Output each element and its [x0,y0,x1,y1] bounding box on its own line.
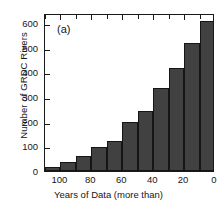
x-axis-tick-labels: 100806040200 [44,174,214,187]
bar [169,68,184,171]
y-tick-label: 600 [6,19,38,29]
panel-label: (a) [57,23,70,35]
bar [60,162,75,171]
y-tick-label: 400 [6,69,38,79]
y-tick-label: 200 [6,118,38,128]
bar [107,141,122,171]
x-tick-label: 0 [194,174,217,185]
bar [184,43,199,171]
x-axis-title: Years of Data (more than) [0,189,217,200]
y-axis-tick-labels: 0100200300400500600 [6,14,38,172]
bar [138,111,153,171]
bar [122,122,137,171]
bar [91,147,106,171]
bar [200,21,214,171]
y-tick-label: 0 [6,167,38,177]
chart-figure: Number of GRDC Rivers 010020030040050060… [0,0,217,212]
plot-area: (a) [44,14,214,172]
y-tick-label: 500 [6,44,38,54]
bar [153,88,168,171]
y-tick-label: 100 [6,143,38,153]
y-tick-label: 300 [6,93,38,103]
bar [45,167,60,171]
bar-series [45,15,213,171]
bar [76,156,91,171]
